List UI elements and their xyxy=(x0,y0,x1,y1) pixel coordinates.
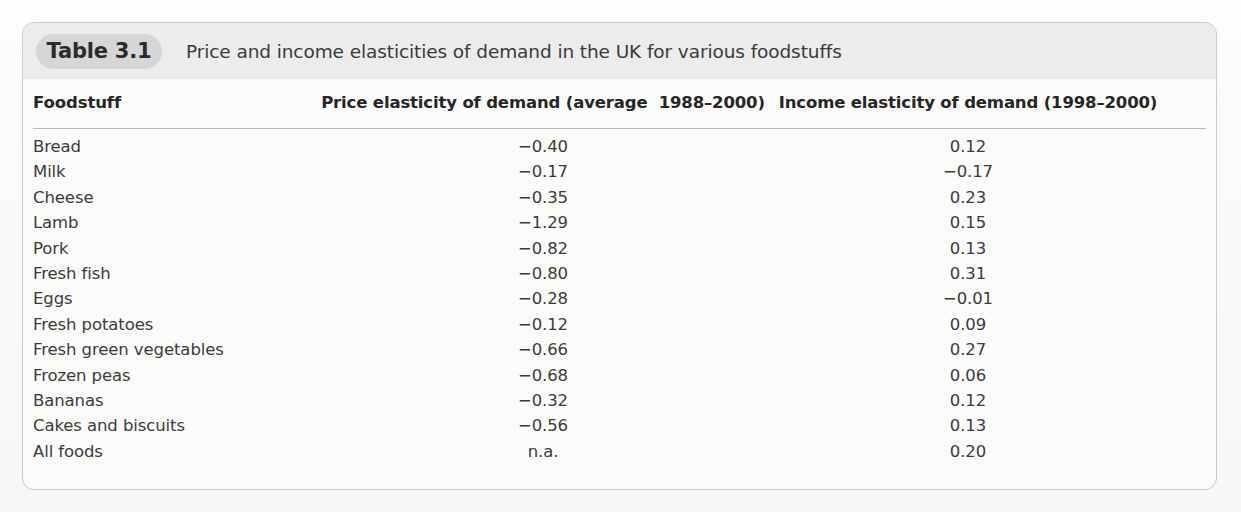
table-row: Fresh green vegetables−0.660.27 xyxy=(23,340,1216,365)
cell-income-elasticity: 0.09 xyxy=(723,315,1213,334)
cell-price-elasticity: −1.29 xyxy=(293,213,793,232)
cell-foodstuff: Bread xyxy=(33,137,81,156)
cell-income-elasticity: 0.13 xyxy=(723,239,1213,258)
table-3-1-frame: Table 3.1 Price and income elasticities … xyxy=(22,22,1217,490)
cell-income-elasticity: 0.23 xyxy=(723,188,1213,207)
cell-price-elasticity: −0.56 xyxy=(293,416,793,435)
table-row: Lamb−1.290.15 xyxy=(23,213,1216,238)
table-row: Eggs−0.28−0.01 xyxy=(23,289,1216,314)
table-body: Bread−0.400.12Milk−0.17−0.17Cheese−0.350… xyxy=(23,137,1216,467)
table-row: Cheese−0.350.23 xyxy=(23,188,1216,213)
table-grid: Foodstuff Price elasticity of demand (av… xyxy=(23,79,1216,490)
table-header-row: Foodstuff Price elasticity of demand (av… xyxy=(23,79,1216,128)
cell-price-elasticity: −0.32 xyxy=(293,391,793,410)
cell-price-elasticity: −0.82 xyxy=(293,239,793,258)
cell-price-elasticity: −0.12 xyxy=(293,315,793,334)
header-rule xyxy=(33,128,1206,129)
table-row: Cakes and biscuits−0.560.13 xyxy=(23,416,1216,441)
cell-income-elasticity: −0.17 xyxy=(723,162,1213,181)
column-header-price-elasticity: Price elasticity of demand (average 1988… xyxy=(293,93,793,112)
table-row: Pork−0.820.13 xyxy=(23,239,1216,264)
table-row: Milk−0.17−0.17 xyxy=(23,162,1216,187)
table-row: Bread−0.400.12 xyxy=(23,137,1216,162)
cell-foodstuff: Eggs xyxy=(33,289,73,308)
cell-foodstuff: Pork xyxy=(33,239,68,258)
cell-foodstuff: Lamb xyxy=(33,213,78,232)
cell-price-elasticity: −0.35 xyxy=(293,188,793,207)
cell-price-elasticity: −0.28 xyxy=(293,289,793,308)
cell-foodstuff: Milk xyxy=(33,162,66,181)
table-row: Frozen peas−0.680.06 xyxy=(23,366,1216,391)
cell-price-elasticity: −0.66 xyxy=(293,340,793,359)
table-row: Bananas−0.320.12 xyxy=(23,391,1216,416)
cell-income-elasticity: 0.31 xyxy=(723,264,1213,283)
table-row: Fresh potatoes−0.120.09 xyxy=(23,315,1216,340)
cell-foodstuff: Frozen peas xyxy=(33,366,131,385)
cell-price-elasticity: n.a. xyxy=(293,442,793,461)
cell-income-elasticity: 0.12 xyxy=(723,137,1213,156)
cell-income-elasticity: 0.20 xyxy=(723,442,1213,461)
cell-income-elasticity: 0.13 xyxy=(723,416,1213,435)
cell-price-elasticity: −0.68 xyxy=(293,366,793,385)
cell-foodstuff: Fresh potatoes xyxy=(33,315,153,334)
cell-price-elasticity: −0.80 xyxy=(293,264,793,283)
cell-foodstuff: Cheese xyxy=(33,188,93,207)
cell-foodstuff: Bananas xyxy=(33,391,103,410)
cell-foodstuff: Fresh fish xyxy=(33,264,111,283)
cell-income-elasticity: 0.15 xyxy=(723,213,1213,232)
cell-foodstuff: All foods xyxy=(33,442,103,461)
column-header-income-elasticity: Income elasticity of demand (1998–2000) xyxy=(723,93,1213,112)
cell-income-elasticity: 0.06 xyxy=(723,366,1213,385)
table-number-badge: Table 3.1 xyxy=(36,34,162,69)
cell-foodstuff: Cakes and biscuits xyxy=(33,416,185,435)
cell-income-elasticity: −0.01 xyxy=(723,289,1213,308)
cell-price-elasticity: −0.17 xyxy=(293,162,793,181)
table-row: Fresh fish−0.800.31 xyxy=(23,264,1216,289)
column-header-foodstuff: Foodstuff xyxy=(33,93,121,112)
table-title-row: Table 3.1 Price and income elasticities … xyxy=(23,23,1216,79)
cell-income-elasticity: 0.27 xyxy=(723,340,1213,359)
cell-income-elasticity: 0.12 xyxy=(723,391,1213,410)
cell-foodstuff: Fresh green vegetables xyxy=(33,340,224,359)
table-caption: Price and income elasticities of demand … xyxy=(186,41,842,62)
cell-price-elasticity: −0.40 xyxy=(293,137,793,156)
table-row: All foodsn.a.0.20 xyxy=(23,442,1216,467)
